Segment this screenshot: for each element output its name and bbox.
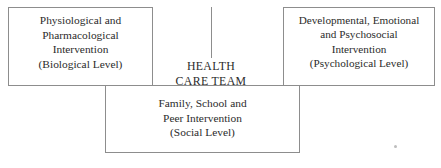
- label-line: (Social Level): [105, 125, 300, 140]
- label-line: HEALTH: [152, 59, 270, 74]
- label-line: and Psychosocial: [281, 27, 437, 41]
- label-line: Physiological and: [8, 13, 153, 28]
- label-line: Family, School and: [105, 96, 300, 111]
- label-health-care-team: HEALTH CARE TEAM: [152, 59, 270, 89]
- connector-line-top-vertical: [211, 7, 212, 58]
- label-psychological-intervention: Developmental, Emotional and Psychosocia…: [281, 13, 437, 70]
- label-line: Intervention: [281, 42, 437, 56]
- label-line: (Psychological Level): [281, 56, 437, 70]
- label-social-intervention: Family, School and Peer Intervention (So…: [105, 96, 300, 140]
- label-line: Pharmacological: [8, 28, 153, 43]
- label-biological-intervention: Physiological and Pharmacological Interv…: [8, 13, 153, 71]
- label-line: Intervention: [8, 42, 153, 57]
- label-line: CARE TEAM: [152, 74, 270, 89]
- diagram-canvas: Physiological and Pharmacological Interv…: [0, 0, 441, 168]
- scan-artifact-speck: [394, 145, 397, 148]
- label-line: Peer Intervention: [105, 111, 300, 126]
- label-line: Developmental, Emotional: [281, 13, 437, 27]
- label-line: (Biological Level): [8, 57, 153, 72]
